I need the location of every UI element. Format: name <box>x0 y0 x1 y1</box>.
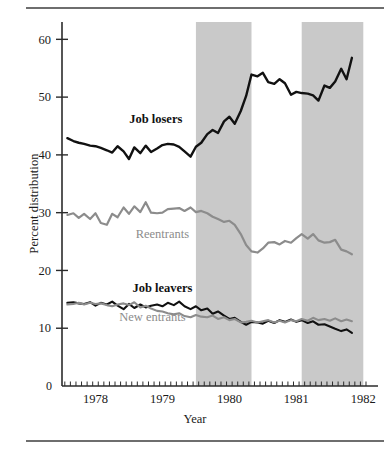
x-tick-label-1979: 1979 <box>150 392 175 406</box>
recession-band-2 <box>302 22 364 386</box>
x-tick-label-1978: 1978 <box>83 392 108 406</box>
annotation-job-losers: Job losers <box>129 112 182 126</box>
annotation-reentrants: Reentrants <box>136 227 190 241</box>
y-tick-label-0: 0 <box>46 379 52 393</box>
y-tick-label-60: 60 <box>39 33 52 47</box>
annotation-new-entrants: New entrants <box>119 310 185 324</box>
y-tick-label-50: 50 <box>39 90 52 104</box>
x-axis-title: Year <box>0 412 390 427</box>
annotation-job-leavers: Job leavers <box>132 281 192 295</box>
figure-container: 0102030405060 19781979198019811982 Job l… <box>0 0 390 449</box>
y-tick-label-10: 10 <box>39 321 52 335</box>
series-annotations-group: Job losersReentrantsJob leaversNew entra… <box>119 112 192 325</box>
line-chart-plot: 0102030405060 19781979198019811982 Job l… <box>0 0 390 449</box>
x-tick-label-1981: 1981 <box>284 392 309 406</box>
x-tick-label-1980: 1980 <box>217 392 242 406</box>
y-axis-title: Percent distribution <box>27 129 42 279</box>
x-tick-labels-group: 19781979198019811982 <box>83 392 376 406</box>
x-tick-label-1982: 1982 <box>351 392 376 406</box>
recession-band-1 <box>196 22 252 386</box>
